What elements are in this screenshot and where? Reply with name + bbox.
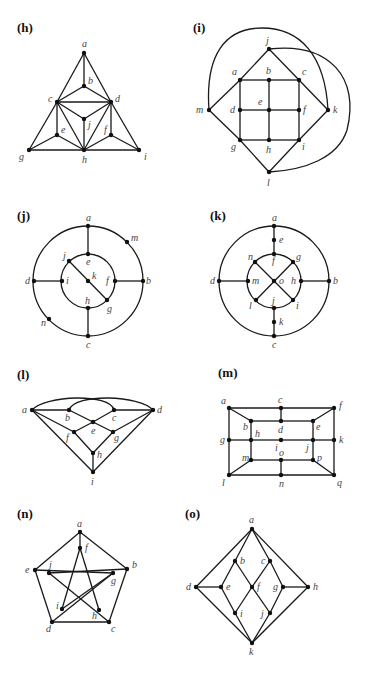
vertex-label: o xyxy=(279,447,284,458)
graph-figure: (h)abcdjefghi(i)jabcmdefkghil(j)amejdikf… xyxy=(0,0,366,675)
vertex-h xyxy=(91,451,95,455)
edge-f-i xyxy=(235,587,252,613)
vertex-f xyxy=(297,108,301,112)
vertex-b xyxy=(327,279,331,283)
vertex-label: d xyxy=(278,424,284,435)
vertex-label: h xyxy=(97,449,102,460)
vertex-label: l xyxy=(222,477,225,488)
vertex-l xyxy=(227,473,231,477)
vertex-e xyxy=(272,238,276,242)
edge-a-b xyxy=(229,408,251,421)
vertex-label: m xyxy=(196,104,203,115)
vertex-e xyxy=(267,108,271,112)
vertex-label: h xyxy=(266,144,271,155)
vertex-g xyxy=(281,585,285,589)
vertex-d xyxy=(32,279,36,283)
vertex-label: i xyxy=(240,608,243,619)
vertex-label: f xyxy=(66,432,70,443)
vertex-c xyxy=(297,78,301,82)
vertex-g xyxy=(227,438,231,442)
edge-e-g xyxy=(93,422,113,432)
vertex-label: g xyxy=(220,434,225,445)
vertex-label: f xyxy=(85,542,89,553)
vertex-label: f xyxy=(272,255,276,266)
vertex-label: b xyxy=(132,559,137,570)
vertex-label: j xyxy=(61,250,66,261)
vertex-m xyxy=(246,279,250,283)
vertex-label: d xyxy=(230,104,236,115)
vertex-k xyxy=(272,320,276,324)
vertex-n xyxy=(47,317,51,321)
vertex-label: l xyxy=(267,177,270,188)
vertex-label: h xyxy=(85,295,90,306)
vertex-label: g xyxy=(107,303,112,314)
vertex-f xyxy=(113,279,117,283)
vertex-label: e xyxy=(226,581,231,592)
vertex-label: d xyxy=(186,581,192,592)
edge-f-e xyxy=(313,408,334,421)
vertex-label: a xyxy=(86,212,91,223)
vertex-label: h xyxy=(82,154,87,165)
vertex-a xyxy=(250,527,254,531)
vertex-g xyxy=(238,138,242,142)
vertex-label: d xyxy=(157,404,163,415)
vertex-c xyxy=(55,100,59,104)
vertex-i xyxy=(279,438,283,442)
figure-caption xyxy=(4,662,362,670)
vertex-p xyxy=(311,458,315,462)
vertex-m xyxy=(249,458,253,462)
vertex-i xyxy=(60,279,64,283)
vertex-b xyxy=(233,559,237,563)
vertex-c xyxy=(279,406,283,410)
vertex-j xyxy=(311,438,315,442)
curved-edge xyxy=(32,398,114,410)
vertex-label: b xyxy=(88,75,93,86)
vertex-label: j xyxy=(270,295,275,306)
vertex-d xyxy=(217,279,221,283)
vertex-label: a xyxy=(77,518,82,529)
vertex-label: k xyxy=(92,270,97,281)
edge-m-g xyxy=(209,110,240,140)
vertex-k xyxy=(326,108,330,112)
vertex-label: j xyxy=(259,608,264,619)
edge-d-e xyxy=(35,570,52,622)
vertex-b xyxy=(125,567,129,571)
vertex-i xyxy=(60,607,64,611)
vertex-h xyxy=(249,438,253,442)
graph-panel-i: (i)jabcmdefkghil xyxy=(193,20,350,188)
vertex-label: n xyxy=(248,251,253,262)
vertex-label: f xyxy=(104,124,108,135)
panel-label: (i) xyxy=(193,20,205,35)
vertex-i xyxy=(91,470,95,474)
vertex-label: m xyxy=(242,452,249,463)
vertex-label: i xyxy=(296,300,299,311)
vertex-j xyxy=(82,117,86,121)
vertex-e xyxy=(91,420,95,424)
vertex-e xyxy=(311,419,315,423)
vertex-d xyxy=(238,108,242,112)
vertex-label: e xyxy=(25,564,30,575)
edge-g-l xyxy=(240,140,269,172)
vertex-label: j xyxy=(47,559,52,570)
vertex-label: a xyxy=(22,404,27,415)
vertex-k xyxy=(250,641,254,645)
vertex-label: h xyxy=(313,581,318,592)
vertex-b xyxy=(267,78,271,82)
vertex-label: h xyxy=(92,610,97,621)
edge-l-i xyxy=(269,140,299,172)
vertex-j xyxy=(268,611,272,615)
vertex-label: e xyxy=(258,96,263,107)
vertex-label: p xyxy=(316,452,322,463)
edge-g-d xyxy=(113,410,153,432)
vertex-j xyxy=(272,306,276,310)
vertex-n xyxy=(253,260,257,264)
vertex-l xyxy=(267,170,271,174)
vertex-label: o xyxy=(279,275,284,286)
vertex-label: a xyxy=(272,212,277,223)
vertex-label: a xyxy=(249,514,254,525)
vertex-label: q xyxy=(337,477,342,488)
vertex-label: g xyxy=(114,432,119,443)
vertex-g xyxy=(291,260,295,264)
vertex-label: f xyxy=(106,275,110,286)
vertex-b xyxy=(249,419,253,423)
